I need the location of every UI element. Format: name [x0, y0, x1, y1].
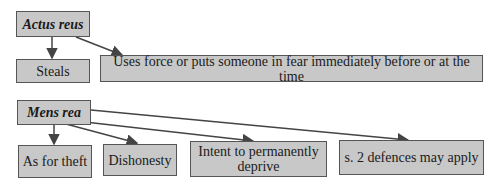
s2-defences-node: s. 2 defences may apply	[339, 140, 484, 175]
uses-force-node: Uses force or puts someone in fear immed…	[100, 55, 483, 82]
mens-rea-node: Mens rea	[17, 100, 91, 125]
actus-reus-node: Actus reus	[16, 11, 90, 37]
mens-rea-label: Mens rea	[27, 105, 81, 120]
s2-defences-label: s. 2 defences may apply	[344, 150, 478, 165]
steals-node: Steals	[16, 59, 90, 83]
uses-force-label: Uses force or puts someone in fear immed…	[101, 54, 482, 84]
dishonesty-label: Dishonesty	[109, 153, 172, 168]
intent-node: Intent to permanently deprive	[190, 141, 327, 177]
actus-reus-label: Actus reus	[22, 17, 83, 32]
as-for-theft-node: As for theft	[18, 145, 92, 178]
steals-label: Steals	[36, 64, 69, 79]
dishonesty-node: Dishonesty	[103, 144, 177, 176]
intent-label: Intent to permanently deprive	[191, 144, 326, 174]
as-for-theft-label: As for theft	[23, 154, 88, 169]
